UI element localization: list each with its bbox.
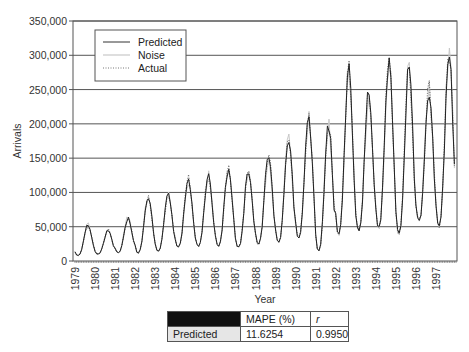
x-tick-label: 1995 <box>390 267 402 291</box>
y-tick-label: 250,000 <box>29 84 67 96</box>
y-tick-label: 100,000 <box>29 186 67 198</box>
x-tick-label: 1986 <box>209 267 221 291</box>
table-cell-mape: 11.6254 <box>241 327 311 342</box>
x-tick-label: 1988 <box>250 267 262 291</box>
legend-label-noise: Noise <box>138 49 165 61</box>
x-tick-label: 1987 <box>229 267 241 291</box>
arrivals-line-chart: 050,000100,000150,000200,000250,000300,0… <box>0 0 469 352</box>
x-tick-label: 1982 <box>129 267 141 291</box>
y-tick-label: 350,000 <box>29 15 67 27</box>
y-tick-label: 50,000 <box>35 221 67 233</box>
y-axis-title: Arrivals <box>11 123 23 158</box>
stats-table: MAPE (%) r Predicted 11.6254 0.9950 <box>167 311 349 342</box>
table-header-r: r <box>311 312 349 327</box>
x-tick-label: 1984 <box>169 267 181 291</box>
table-row-label: Predicted <box>168 327 241 342</box>
x-tick-label: 1980 <box>89 267 101 291</box>
x-tick-label: 1994 <box>370 267 382 291</box>
y-tick-label: 300,000 <box>29 49 67 61</box>
legend-label-predicted: Predicted <box>138 36 183 48</box>
x-axis-title: Year <box>254 293 276 305</box>
x-tick-label: 1991 <box>310 267 322 291</box>
legend-label-actual: Actual <box>138 62 167 74</box>
x-tick-label: 1996 <box>410 267 422 291</box>
y-tick-label: 150,000 <box>29 152 67 164</box>
x-tick-label: 1981 <box>109 267 121 291</box>
y-tick-label: 0 <box>61 255 67 267</box>
x-tick-label: 1979 <box>69 267 81 291</box>
x-tick-label: 1990 <box>290 267 302 291</box>
x-tick-label: 1992 <box>330 267 342 291</box>
x-tick-label: 1997 <box>430 267 442 291</box>
y-tick-label: 200,000 <box>29 118 67 130</box>
table-cell-r: 0.9950 <box>311 327 349 342</box>
series-predicted <box>75 57 454 255</box>
x-tick-label: 1993 <box>350 267 362 291</box>
stats-table-header: MAPE (%) r <box>168 312 349 327</box>
table-row: Predicted 11.6254 0.9950 <box>168 327 349 342</box>
table-header-mape: MAPE (%) <box>241 312 311 327</box>
x-tick-label: 1983 <box>149 267 161 291</box>
y-axis-ticks: 050,000100,000150,000200,000250,000300,0… <box>29 15 73 267</box>
table-header-blank <box>168 312 241 327</box>
x-tick-label: 1989 <box>270 267 282 291</box>
legend: Predicted Noise Actual <box>95 30 186 81</box>
x-axis-ticks: 1979198019811982198319841985198619871988… <box>69 261 456 290</box>
x-tick-label: 1985 <box>189 267 201 291</box>
